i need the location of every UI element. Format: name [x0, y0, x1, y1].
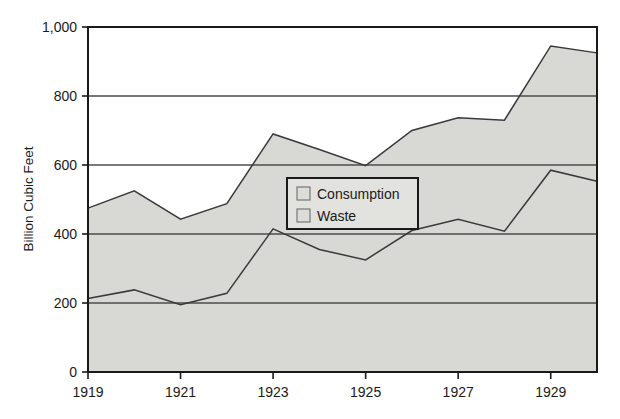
legend-label-waste: Waste: [317, 208, 356, 224]
y-tick-label-1000: 1,000: [42, 19, 77, 35]
y-axis-label: Billion Cubic Feet: [21, 146, 36, 251]
y-axis-ticks-group: 02004006008001,000: [42, 19, 88, 380]
x-tick-label-1919: 1919: [72, 384, 103, 400]
x-tick-label-1923: 1923: [258, 384, 289, 400]
legend-swatch-waste: [297, 209, 310, 222]
y-tick-label-0: 0: [69, 364, 77, 380]
chart-legend: ConsumptionWaste: [287, 178, 418, 229]
y-tick-label-200: 200: [54, 295, 78, 311]
y-tick-label-800: 800: [54, 88, 78, 104]
x-tick-label-1925: 1925: [350, 384, 381, 400]
y-tick-label-600: 600: [54, 157, 78, 173]
legend-label-consumption: Consumption: [317, 186, 400, 202]
area-chart: 02004006008001,000 191919211923192519271…: [0, 0, 620, 419]
x-tick-label-1929: 1929: [535, 384, 566, 400]
x-tick-label-1921: 1921: [165, 384, 196, 400]
x-axis-ticks-group: 191919211923192519271929: [72, 372, 566, 400]
x-tick-label-1927: 1927: [443, 384, 474, 400]
legend-swatch-consumption: [297, 187, 310, 200]
chart-container: 02004006008001,000 191919211923192519271…: [0, 0, 620, 419]
y-tick-label-400: 400: [54, 226, 78, 242]
